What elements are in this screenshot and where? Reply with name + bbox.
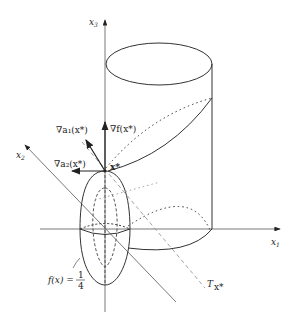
grad-a1-label: ∇a₁(x*) (56, 125, 88, 135)
optimization-diagram: x3 x1 x2 ∇f(x*) ∇a₁(x*) ∇a₂(x*) x* f(x) … (0, 0, 296, 333)
svg-text:f(x) =: f(x) = (47, 275, 74, 285)
intersection-curve (106, 98, 212, 171)
point-label: x* (110, 162, 120, 172)
optimal-point (103, 169, 106, 172)
svg-text:4: 4 (78, 281, 84, 291)
x3-label: x3 (89, 17, 98, 28)
level-set-label: f(x) = 1 4 (47, 258, 85, 291)
cylinder (106, 43, 212, 250)
grad-a1-vector (86, 140, 105, 171)
svg-text:T: T (207, 279, 214, 289)
x2-label: x2 (16, 150, 25, 161)
svg-text:x*: x* (214, 282, 224, 292)
grad-a2-label: ∇a₂(x*) (54, 159, 86, 169)
grad-f-label: ∇f(x*) (110, 124, 136, 134)
x1-label: x1 (271, 237, 280, 248)
tangent-plane-label: T x* (207, 279, 224, 292)
svg-text:1: 1 (78, 270, 84, 280)
ellipsoid (80, 171, 130, 285)
